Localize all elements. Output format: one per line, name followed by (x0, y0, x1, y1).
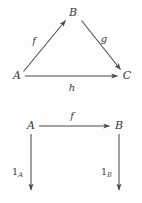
object-label-b-top: B (68, 6, 77, 19)
diagram-page: A B C f g h A B f 1 A 1 B (0, 0, 142, 203)
morphism-label-identity-a-subscript: A (17, 171, 23, 179)
square-diagram-group: A B f 1 A 1 B (12, 110, 123, 191)
morphism-label-f-top: f (31, 35, 38, 46)
morphism-label-f-bottom: f (69, 110, 76, 121)
object-label-a-top: A (12, 69, 21, 82)
object-label-a-bottom: A (26, 119, 35, 132)
arrow-f-a-to-b (24, 21, 66, 72)
object-label-c-top: C (123, 69, 132, 82)
morphism-label-identity-a: 1 (12, 166, 18, 177)
diagram-canvas: A B C f g h A B f 1 A 1 B (0, 0, 142, 203)
arrow-g-b-to-c (82, 21, 121, 70)
morphism-label-identity-b-subscript: B (106, 171, 112, 179)
object-label-b-bottom: B (114, 119, 123, 132)
morphism-label-h-top: h (69, 82, 75, 93)
morphism-label-g-top: g (101, 33, 107, 44)
triangle-diagram-group: A B C f g h (12, 6, 132, 93)
morphism-label-identity-b: 1 (101, 166, 107, 177)
